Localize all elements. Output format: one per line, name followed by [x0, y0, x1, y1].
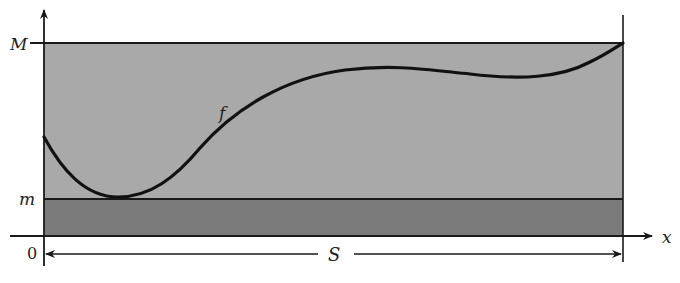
- lower-bound-label: m: [19, 189, 35, 209]
- origin-label: 0: [27, 244, 37, 263]
- upper-region: [44, 43, 623, 199]
- interval-label: S: [328, 244, 340, 265]
- upper-bound-label: M: [9, 34, 28, 54]
- lower-region: [44, 199, 623, 236]
- diagram-canvas: M m 0 x f S: [0, 0, 680, 283]
- x-axis-label: x: [662, 227, 672, 247]
